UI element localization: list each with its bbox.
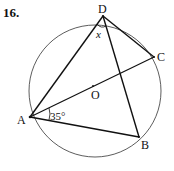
label-A: A (17, 113, 26, 127)
geometry-diagram: 16. D C O A B x 35° (0, 0, 174, 171)
vertex-B (138, 136, 140, 138)
segment-AC-diameter (30, 57, 154, 117)
label-C: C (157, 50, 165, 64)
problem-number: 16. (3, 5, 19, 20)
angle-label-35: 35° (50, 110, 65, 122)
segment-AB (30, 117, 139, 137)
angle-label-x: x (95, 28, 101, 40)
segment-DB (103, 16, 139, 137)
label-D: D (98, 2, 107, 16)
label-O: O (91, 88, 100, 102)
label-B: B (141, 138, 149, 152)
vertex-A (29, 116, 32, 119)
segment-DC (103, 16, 154, 57)
vertex-C (153, 56, 155, 58)
center-point-O (92, 85, 94, 87)
